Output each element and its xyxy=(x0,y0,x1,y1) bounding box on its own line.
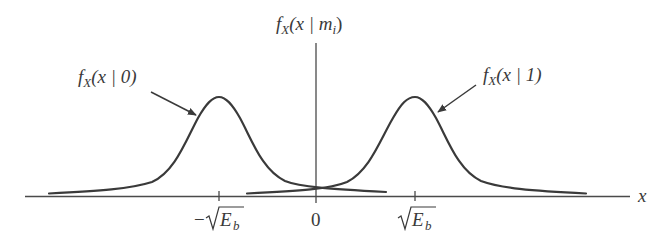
svg-text:E: E xyxy=(411,209,424,230)
arrow-to-curve-1 xyxy=(438,85,476,112)
svg-text:−: − xyxy=(194,209,205,230)
label-f-x-given-1: fX(x | 1) xyxy=(483,64,542,88)
tick-label-zero: 0 xyxy=(311,209,321,230)
curve-f-x-given-0 xyxy=(49,97,386,194)
pdf-diagram: x fX(x | mi) fX(x | 0) fX(x | 1) − E b 0… xyxy=(0,0,668,252)
tick-label-pos-sqrt-eb: E b xyxy=(398,207,436,233)
arrow-to-curve-0 xyxy=(151,92,196,115)
svg-text:b: b xyxy=(425,218,432,233)
svg-text:E: E xyxy=(219,209,232,230)
svg-text:b: b xyxy=(233,218,240,233)
tick-label-neg-sqrt-eb: − E b xyxy=(194,207,244,233)
x-axis-label: x xyxy=(637,185,647,206)
y-axis-label: fX(x | mi) xyxy=(276,13,342,37)
curve-f-x-given-1 xyxy=(247,97,586,194)
label-f-x-given-0: fX(x | 0) xyxy=(78,66,137,90)
